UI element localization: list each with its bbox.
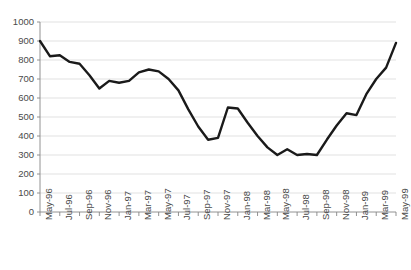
x-axis-tick-label: Sep-98 (321, 189, 331, 220)
y-axis-tick-label: 100 (0, 188, 34, 198)
x-axis-tick-label: May-97 (163, 188, 173, 220)
chart-plot-area (0, 0, 411, 270)
x-axis-tick-label: Nov-97 (222, 189, 232, 220)
y-axis-tick-label: 200 (0, 169, 34, 179)
x-axis-tick-label: Jul-98 (301, 194, 311, 220)
y-axis-tick-label: 500 (0, 112, 34, 122)
x-axis-tick-label: Nov-98 (341, 189, 351, 220)
x-axis-tick-label: Mar-98 (262, 190, 272, 220)
y-axis-tick-label: 700 (0, 74, 34, 84)
x-axis-tick-label: Jan-97 (123, 191, 133, 220)
x-axis-tick-label: May-99 (400, 188, 410, 220)
x-axis-tick-label: Jan-98 (242, 191, 252, 220)
y-axis-tick-label: 0 (0, 207, 34, 217)
x-axis-tick-label: Mar-99 (380, 190, 390, 220)
y-axis-tick-label: 800 (0, 55, 34, 65)
x-axis-tick-label: Jul-96 (64, 194, 74, 220)
y-axis-tick-label: 1000 (0, 17, 34, 27)
y-axis-tick-label: 900 (0, 36, 34, 46)
x-axis-tick-label: Nov-96 (103, 189, 113, 220)
line-chart: 01002003004005006007008009001000 May-96J… (0, 0, 411, 270)
x-axis-tick-label: May-96 (44, 188, 54, 220)
y-axis-tick-label: 600 (0, 93, 34, 103)
x-axis-tick-label: Jul-97 (182, 194, 192, 220)
y-axis-tick-label: 300 (0, 150, 34, 160)
x-axis-tick-label: Sep-97 (202, 189, 212, 220)
x-axis-tick-label: May-98 (281, 188, 291, 220)
x-axis-tick-label: Jan-99 (360, 191, 370, 220)
x-axis-tick-label: Mar-97 (143, 190, 153, 220)
x-axis-tick-label: Sep-96 (84, 189, 94, 220)
y-axis-tick-label: 400 (0, 131, 34, 141)
